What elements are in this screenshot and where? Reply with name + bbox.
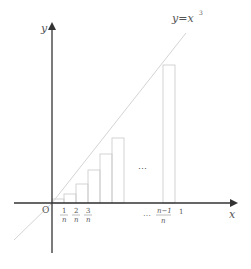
svg-text:n: n xyxy=(86,216,91,224)
svg-text:n: n xyxy=(62,216,67,224)
riemann-rectangles xyxy=(52,65,175,203)
axis-ellipsis: … xyxy=(143,209,151,218)
svg-text:n−1: n−1 xyxy=(157,207,172,215)
svg-text:2: 2 xyxy=(74,207,78,215)
svg-text:y=x: y=x xyxy=(171,12,194,25)
rectangle-2 xyxy=(64,194,76,203)
svg-text:3: 3 xyxy=(199,9,203,16)
tick-n-minus-1-over-n: n−1 n xyxy=(156,207,172,225)
svg-text:1: 1 xyxy=(62,207,66,215)
middle-ellipsis: ⋯ xyxy=(138,164,147,174)
riemann-diagram: y x O y=x 3 1 n 2 n 3 n … n−1 n 1 ⋯ xyxy=(0,0,251,269)
svg-text:3: 3 xyxy=(86,207,90,215)
svg-text:n: n xyxy=(74,216,79,224)
rectangle-5 xyxy=(100,154,112,203)
tick-1-over-n: 1 n xyxy=(60,207,68,224)
rectangle-3 xyxy=(76,184,88,203)
tick-one: 1 xyxy=(179,208,183,216)
curve-label: y=x 3 xyxy=(171,9,203,25)
rectangle-6 xyxy=(112,138,124,203)
svg-text:n: n xyxy=(161,217,166,225)
origin-label: O xyxy=(42,205,49,215)
rectangle-4 xyxy=(88,170,100,203)
rectangle-last xyxy=(163,65,175,203)
tick-3-over-n: 3 n xyxy=(84,207,92,224)
tick-2-over-n: 2 n xyxy=(72,207,80,224)
x-axis-label: x xyxy=(229,208,236,221)
y-axis-label: y xyxy=(40,22,48,35)
